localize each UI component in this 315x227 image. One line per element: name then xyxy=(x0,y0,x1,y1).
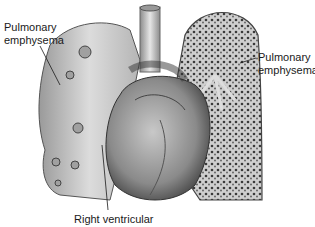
label-right-line1: Pulmonary xyxy=(258,51,315,64)
label-right-line2: emphysema xyxy=(258,64,315,77)
label-pulmonary-emphysema-left: Pulmonary emphysema xyxy=(4,21,64,47)
label-right-ventricular: Right ventricular xyxy=(74,213,153,226)
label-left-line2: emphysema xyxy=(4,34,64,47)
label-left-line1: Pulmonary xyxy=(4,21,64,34)
label-pulmonary-emphysema-right: Pulmonary emphysema xyxy=(258,51,315,77)
